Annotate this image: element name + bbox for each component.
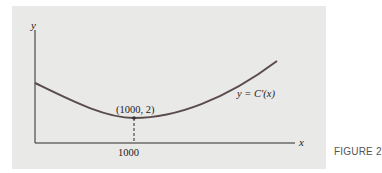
x-axis-label: x [298,136,304,148]
min-point-marker [132,116,136,120]
x-tick-1000: 1000 [118,147,139,158]
chart-plot: y x 1000 (1000, 2) y = C′(x) [0,0,382,173]
figure-caption: FIGURE 2 [334,146,382,157]
y-axis-label: y [30,19,36,31]
curve-label: y = C′(x) [236,88,275,100]
min-point-label: (1000, 2) [116,104,155,116]
